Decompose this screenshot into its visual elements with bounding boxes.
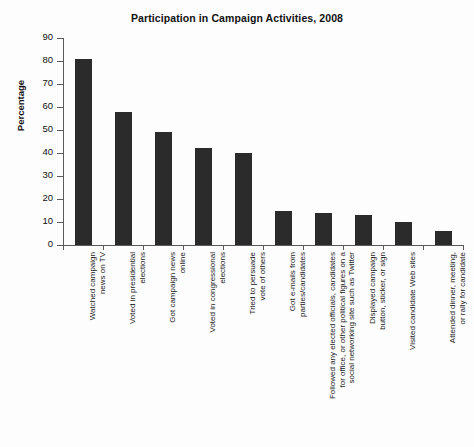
x-axis-category-label: Visited candidate Web sites	[408, 252, 418, 438]
y-axis-tick-label: 60	[29, 100, 53, 111]
x-axis-tick	[303, 245, 304, 250]
x-axis-category-label: Displayed campaign button, sticker, or s…	[368, 252, 387, 438]
bar	[275, 211, 292, 246]
x-axis-category-label: Watched campaign news on TV	[88, 252, 107, 438]
y-axis-tick-label: 30	[29, 169, 53, 180]
x-axis-category-label: Attended dinner, meeting, or rally for c…	[448, 252, 467, 438]
y-axis-tick: 40	[57, 153, 63, 154]
bar	[155, 132, 172, 245]
bar	[355, 215, 372, 245]
bar	[195, 148, 212, 245]
x-axis-tick	[223, 245, 224, 250]
x-axis-category-label: Followed any elected officials, candidat…	[328, 252, 357, 438]
x-axis-category-labels: Watched campaign news on TVVoted in pres…	[63, 252, 463, 442]
x-axis-tick	[183, 245, 184, 250]
x-axis-tick	[423, 245, 424, 250]
y-axis-tick: 90	[57, 38, 63, 39]
y-axis-tick-label: 50	[29, 123, 53, 134]
y-axis-tick-label: 40	[29, 146, 53, 157]
bar	[435, 231, 452, 245]
x-axis-tick	[143, 245, 144, 250]
x-axis-tick	[463, 245, 464, 250]
y-axis-tick: 20	[57, 199, 63, 200]
x-axis-category-label: Got e-mails from parties/candidates	[288, 252, 307, 438]
y-axis-title: Percentage	[15, 66, 26, 146]
y-axis-tick: 70	[57, 84, 63, 85]
x-axis-category-label: Voted in presidential elections	[128, 252, 147, 438]
y-axis-tick-label: 10	[29, 215, 53, 226]
x-axis-tick	[263, 245, 264, 250]
x-axis-category-label: Voted in congressional elections	[208, 252, 227, 438]
y-axis-tick-label: 90	[29, 31, 53, 42]
y-axis-tick: 80	[57, 61, 63, 62]
y-axis-tick: 60	[57, 107, 63, 108]
bar	[115, 112, 132, 245]
bar	[235, 153, 252, 245]
x-axis-category-label: Tried to persuade vote of others	[248, 252, 267, 438]
y-axis-tick: 10	[57, 222, 63, 223]
chart-title: Participation in Campaign Activities, 20…	[0, 12, 474, 24]
chart-figure: Participation in Campaign Activities, 20…	[0, 0, 474, 447]
x-axis-tick	[103, 245, 104, 250]
x-axis-tick	[383, 245, 384, 250]
x-axis-tick	[63, 245, 64, 250]
bar	[395, 222, 412, 245]
x-axis-category-label: Got campaign news online	[168, 252, 187, 438]
y-axis-tick-label: 0	[29, 238, 53, 249]
y-axis-tick: 50	[57, 130, 63, 131]
bar	[75, 59, 92, 245]
bar	[315, 213, 332, 245]
y-axis-tick-label: 80	[29, 54, 53, 65]
y-axis-tick-label: 70	[29, 77, 53, 88]
x-axis-tick	[343, 245, 344, 250]
y-axis-line	[63, 38, 64, 246]
plot-area: 0102030405060708090	[63, 38, 463, 245]
y-axis-tick: 30	[57, 176, 63, 177]
y-axis-tick-label: 20	[29, 192, 53, 203]
